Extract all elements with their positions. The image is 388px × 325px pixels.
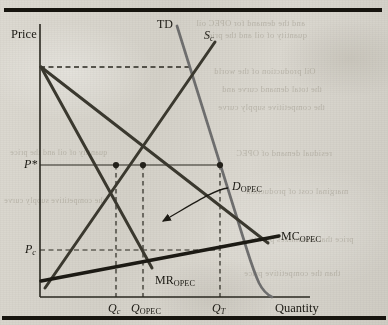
- figure-page: and the demand for OPEC oil quantity of …: [0, 0, 388, 325]
- paper-grain-overlay: [0, 0, 388, 325]
